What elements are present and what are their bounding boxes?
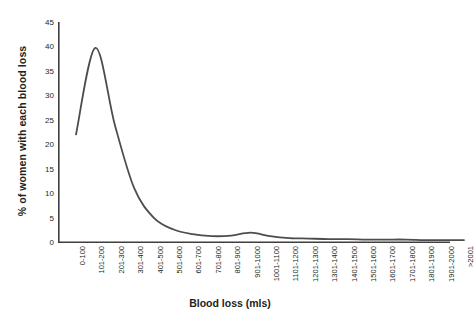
y-axis-tick-40: 40	[45, 43, 54, 51]
plot-svg	[58, 22, 450, 243]
y-axis-tick-5: 5	[50, 215, 54, 223]
plot-area	[58, 22, 450, 243]
x-axis-tick-4: 401-500	[157, 246, 165, 294]
x-axis-tick-8: 801-900	[234, 246, 242, 294]
x-axis-tick-1: 101-200	[98, 246, 106, 294]
x-axis-tick-labels: 0-100101-200201-300301-400401-500501-600…	[58, 246, 450, 294]
x-axis-tick-12: 1201-1300	[312, 246, 320, 294]
x-axis-tick-11: 1101-1200	[292, 246, 300, 294]
x-axis-title: Blood loss (mls)	[0, 297, 460, 309]
x-axis-tick-17: 1701-1800	[409, 246, 417, 294]
data-series-line	[76, 48, 464, 240]
y-axis-tick-labels: 051015202530354045	[28, 18, 54, 244]
x-axis-tick-10: 1001-1100	[273, 246, 281, 294]
x-axis-tick-5: 501-600	[176, 246, 184, 294]
x-axis-tick-20: >2001	[467, 246, 475, 294]
x-axis-tick-2: 201-300	[118, 246, 126, 294]
y-axis-tick-25: 25	[45, 117, 54, 125]
x-axis-tick-6: 601-700	[195, 246, 203, 294]
y-axis-tick-45: 45	[45, 19, 54, 27]
x-axis-tick-9: 901-1000	[254, 246, 262, 294]
y-axis-tick-35: 35	[45, 68, 54, 76]
y-axis-title: % of women with each blood loss	[16, 26, 28, 236]
x-axis-tick-14: 1401-1500	[351, 246, 359, 294]
x-axis-tick-7: 701-800	[215, 246, 223, 294]
x-axis-tick-15: 1501-1600	[370, 246, 378, 294]
y-axis-tick-30: 30	[45, 92, 54, 100]
y-axis-tick-10: 10	[45, 190, 54, 198]
y-axis-tick-15: 15	[45, 166, 54, 174]
x-axis-tick-18: 1801-1900	[428, 246, 436, 294]
x-axis-tick-0: 0-100	[79, 246, 87, 294]
x-axis-tick-13: 1301-1400	[331, 246, 339, 294]
y-axis-tick-0: 0	[50, 239, 54, 247]
x-axis-tick-3: 301-400	[137, 246, 145, 294]
y-axis-tick-20: 20	[45, 141, 54, 149]
x-axis-tick-19: 1901-2000	[448, 246, 456, 294]
x-axis-tick-16: 1601-1700	[389, 246, 397, 294]
